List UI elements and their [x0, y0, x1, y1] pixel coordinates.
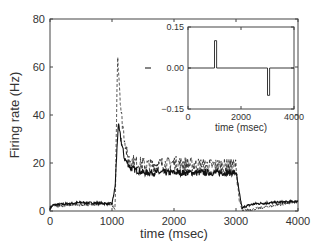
inset-x-tick-label: 2000: [231, 112, 251, 122]
inset-y-tick-label: −0.15: [161, 104, 184, 114]
inset-x-axis-label: time (msec): [215, 122, 267, 133]
inset-x-tick-label: 4000: [284, 112, 304, 122]
main-x-tick-label: 1000: [100, 215, 124, 227]
main-x-tick-label: 0: [47, 215, 53, 227]
series-line-solid: [50, 124, 298, 210]
main-y-axis-label: Firing rate (Hz): [7, 72, 22, 159]
main-y-tick-label: 40: [33, 109, 45, 121]
main-y-tick-label: 60: [33, 61, 45, 73]
main-x-tick-label: 4000: [286, 215, 310, 227]
main-x-axis-label: time (msec): [140, 226, 208, 241]
inset-y-tick-label: 0.00: [166, 63, 184, 73]
firing-rate-chart: 01000200030004000 020406080 time (msec) …: [0, 0, 320, 250]
main-y-tick-label: 20: [33, 157, 45, 169]
inset-x-tick-label: 0: [185, 112, 190, 122]
main-y-tick-label: 80: [33, 13, 45, 25]
inset-y-tick-label: 0.15: [166, 22, 184, 32]
main-x-tick-label: 3000: [224, 215, 248, 227]
main-y-tick-label: 0: [39, 205, 45, 217]
